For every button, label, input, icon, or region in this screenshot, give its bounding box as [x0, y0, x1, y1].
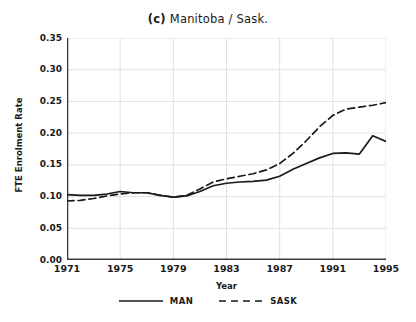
- chart-figure: (c)Manitoba / Sask. 0.000.050.100.150.20…: [0, 0, 416, 322]
- y-axis-tick-label: 0.20: [40, 129, 62, 138]
- y-axis-tick-label: 0.30: [40, 65, 62, 74]
- x-axis-tick-label: 1987: [266, 264, 292, 274]
- chart-legend: MANSASK: [0, 296, 416, 306]
- y-axis-title: FTE Enrolment Rate: [14, 75, 24, 215]
- legend-label: SASK: [270, 296, 297, 306]
- chart-title-index: (c): [148, 12, 166, 26]
- y-axis-tick-label: 0.35: [40, 34, 62, 43]
- legend-swatch-dashed-icon: [219, 297, 263, 305]
- x-axis-tick-label: 1995: [373, 264, 399, 274]
- chart-title-text: Manitoba / Sask.: [166, 12, 268, 26]
- x-axis-tick-labels: 1971197519791983198719911995: [0, 264, 416, 280]
- y-axis-tick-label: 0.10: [40, 192, 62, 201]
- x-axis-tick-label: 1975: [107, 264, 133, 274]
- y-axis-tick-label: 0.05: [40, 224, 62, 233]
- plot-area: [67, 38, 386, 260]
- legend-swatch-solid-icon: [119, 297, 163, 305]
- x-axis-tick-label: 1983: [213, 264, 239, 274]
- chart-plot-svg: [67, 38, 386, 260]
- legend-label: MAN: [170, 296, 193, 306]
- legend-entry-sask[interactable]: SASK: [219, 296, 297, 306]
- x-axis-tick-label: 1979: [160, 264, 186, 274]
- y-axis-tick-label: 0.15: [40, 160, 62, 169]
- x-axis-title: Year: [67, 281, 386, 291]
- chart-title: (c)Manitoba / Sask.: [0, 12, 416, 26]
- x-axis-tick-label: 1991: [320, 264, 346, 274]
- x-axis-tick-label: 1971: [54, 264, 80, 274]
- y-axis-tick-label: 0.25: [40, 97, 62, 106]
- legend-entry-man[interactable]: MAN: [119, 296, 193, 306]
